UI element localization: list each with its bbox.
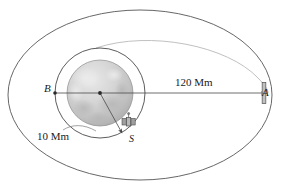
moon-mare-4 bbox=[105, 68, 123, 82]
label-point-a: A bbox=[262, 87, 269, 98]
label-satellite-s: S bbox=[129, 134, 134, 144]
label-apoapsis-distance: 120 Mm bbox=[175, 77, 213, 88]
label-orbit-radius: 10 Mm bbox=[37, 131, 69, 142]
moon-mare-7 bbox=[115, 81, 129, 99]
orbit-diagram-svg bbox=[0, 0, 283, 192]
moon-mare-5 bbox=[87, 111, 111, 125]
figure-canvas: A B S 120 Mm 10 Mm bbox=[0, 0, 283, 192]
moon-mare-6 bbox=[68, 82, 84, 102]
label-point-b: B bbox=[44, 83, 51, 94]
center-dot-icon bbox=[98, 91, 102, 95]
outer-orbit-ellipse bbox=[8, 10, 272, 180]
point-b-dot-icon bbox=[53, 91, 57, 95]
